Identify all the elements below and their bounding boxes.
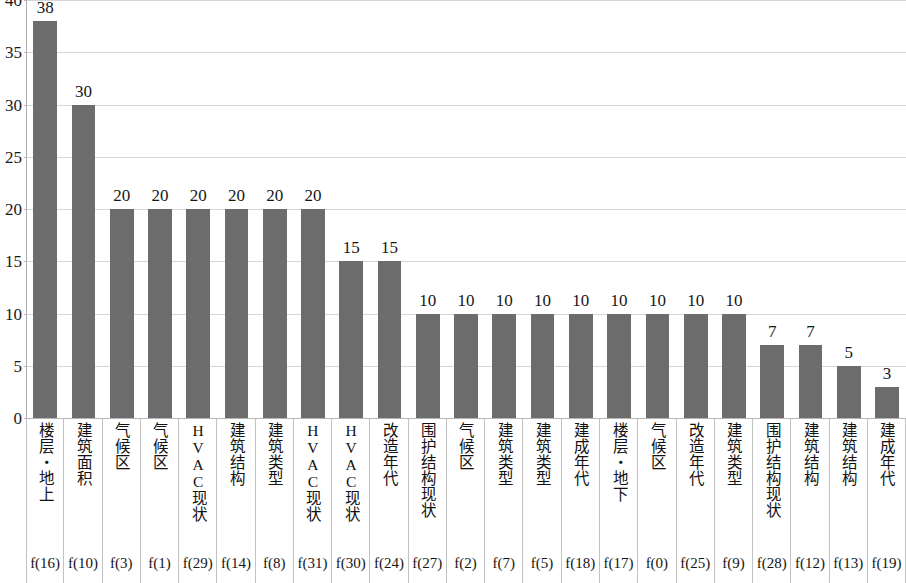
y-tick-label: 25 [5,148,22,165]
bar[interactable]: 5 [837,366,861,418]
category-column: 楼层・地下f(17) [600,418,638,583]
bar-slot: 10 [715,0,753,418]
bar[interactable]: 10 [454,314,478,419]
category-column: HVAC现状f(31) [294,418,332,583]
category-name-cell: 建筑类型 [715,418,753,544]
y-tick-label: 40 [5,0,22,9]
feature-code-cell: f(14) [217,544,255,583]
bar[interactable]: 3 [875,387,899,418]
bar-slot: 10 [447,0,485,418]
category-label: HVAC现状 [343,422,359,522]
bar[interactable]: 10 [569,314,593,419]
bar-slot: 3 [868,0,906,418]
bar-slot: 20 [256,0,294,418]
bar-value-label: 10 [496,292,513,309]
feature-code-cell: f(29) [179,544,217,583]
bar[interactable]: 20 [186,209,210,418]
category-label: 气候区 [113,422,129,470]
bar-value-label: 3 [883,365,892,382]
y-axis: 0510152025303540 [0,0,26,418]
category-label: 建筑结构 [840,422,856,486]
bar[interactable]: 20 [148,209,172,418]
bar[interactable]: 15 [339,261,363,418]
category-label: 改造年代 [687,422,703,486]
feature-code-cell: f(9) [715,544,753,583]
feature-code-cell: f(13) [830,544,868,583]
bar[interactable]: 10 [722,314,746,419]
category-name-cell: 建筑结构 [217,418,255,544]
category-column: 建筑结构f(13) [830,418,868,583]
bar-value-label: 7 [768,323,777,340]
bar-slot: 7 [753,0,791,418]
feature-code-cell: f(1) [141,544,179,583]
bar[interactable]: 15 [378,261,402,418]
feature-code-cell: f(31) [294,544,332,583]
category-label: 建成年代 [572,422,588,486]
category-name-cell: 建成年代 [562,418,600,544]
bar[interactable]: 10 [531,314,555,419]
bar-value-label: 10 [572,292,589,309]
bar-value-label: 20 [151,187,168,204]
category-name-cell: 楼层・地上 [26,418,64,544]
bar[interactable]: 20 [263,209,287,418]
bar-value-label: 10 [611,292,628,309]
category-column: 围护结构现状f(28) [753,418,791,583]
feature-code-cell: f(3) [103,544,141,583]
bar-slot: 10 [485,0,523,418]
category-column: 改造年代f(24) [370,418,408,583]
bar-slot: 20 [179,0,217,418]
bar[interactable]: 10 [416,314,440,419]
bar[interactable]: 10 [607,314,631,419]
bar[interactable]: 10 [684,314,708,419]
bar-value-label: 10 [725,292,742,309]
feature-code-cell: f(10) [64,544,102,583]
category-name-cell: 建筑面积 [64,418,102,544]
feature-code-cell: f(25) [677,544,715,583]
bar-value-label: 20 [190,187,207,204]
bar-slot: 38 [26,0,64,418]
category-name-cell: 建筑类型 [485,418,523,544]
bar-slot: 20 [294,0,332,418]
bar[interactable]: 10 [646,314,670,419]
category-label: 建成年代 [879,422,895,486]
category-name-cell: 围护结构现状 [409,418,447,544]
bar[interactable]: 20 [301,209,325,418]
category-column: HVAC现状f(30) [332,418,370,583]
bar[interactable]: 38 [33,21,57,418]
feature-code-cell: f(19) [868,544,906,583]
category-column: 围护结构现状f(27) [409,418,447,583]
bar-slot: 10 [677,0,715,418]
category-label: 气候区 [649,422,665,470]
category-name-cell: 建筑类型 [523,418,561,544]
bar-slot: 30 [64,0,102,418]
feature-code-cell: f(2) [447,544,485,583]
category-column: 改造年代f(25) [677,418,715,583]
category-column: 建筑结构f(12) [791,418,829,583]
bar-value-label: 15 [381,239,398,256]
bar-value-label: 20 [228,187,245,204]
bar-value-label: 20 [304,187,321,204]
category-label: 建筑类型 [496,422,512,486]
category-label: 建筑面积 [75,422,91,486]
bar[interactable]: 30 [72,105,96,419]
feature-code-cell: f(17) [600,544,638,583]
category-label: 楼层・地上 [37,422,53,502]
category-column: 建筑面积f(10) [64,418,102,583]
bar-slot: 10 [600,0,638,418]
bar[interactable]: 10 [492,314,516,419]
bar[interactable]: 7 [760,345,784,418]
y-tick-label: 30 [5,96,22,113]
bar-value-label: 30 [75,83,92,100]
category-name-cell: 改造年代 [677,418,715,544]
bar-value-label: 38 [37,0,54,16]
bar[interactable]: 7 [799,345,823,418]
bar[interactable]: 20 [225,209,249,418]
category-name-cell: 建成年代 [868,418,906,544]
bar-slot: 10 [562,0,600,418]
bar-value-label: 5 [844,344,853,361]
bar-value-label: 15 [343,239,360,256]
category-label: 围护结构现状 [419,422,435,518]
bar-slot: 10 [638,0,676,418]
category-label: 改造年代 [381,422,397,486]
bar[interactable]: 20 [110,209,134,418]
